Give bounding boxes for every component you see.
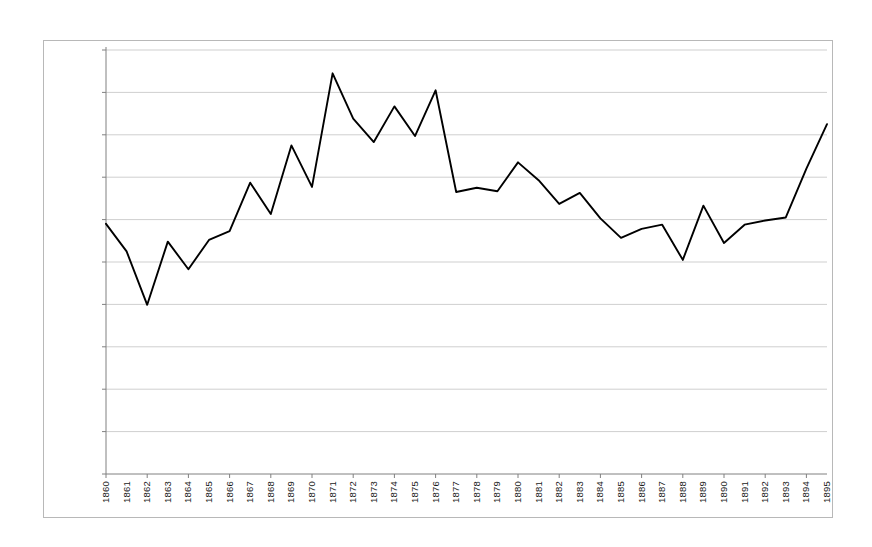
x-tick-label: 1867 — [245, 481, 255, 503]
x-tick-label: 1883 — [575, 481, 585, 503]
x-tick-label: 1863 — [163, 481, 173, 503]
x-tick-label: 1881 — [534, 481, 544, 503]
x-tick-label: 1872 — [348, 481, 358, 503]
x-tick-label: 1861 — [122, 481, 132, 503]
x-tick-label: 1870 — [307, 481, 317, 503]
x-tick-label: 1894 — [801, 481, 811, 503]
x-tick-label: 1885 — [616, 481, 626, 503]
chart-figure: 0.00000%0.10000%0.20000%0.30000%0.40000%… — [43, 40, 833, 518]
x-tick-label: 1887 — [657, 481, 667, 503]
x-tick-label: 1864 — [183, 481, 193, 503]
x-tick-label: 1886 — [637, 481, 647, 503]
x-tick-label: 1879 — [492, 481, 502, 503]
x-tick-label: 1888 — [678, 481, 688, 503]
x-tick-label: 1877 — [451, 481, 461, 503]
x-tick-label: 1862 — [142, 481, 152, 503]
x-tick-label: 1876 — [431, 481, 441, 503]
x-tick-label: 1890 — [719, 481, 729, 503]
x-tick-label: 1895 — [822, 481, 832, 503]
x-axis-tick-labels: 1860186118621863186418651866186718681869… — [44, 41, 834, 519]
x-tick-label: 1866 — [225, 481, 235, 503]
x-tick-label: 1893 — [781, 481, 791, 503]
x-tick-label: 1892 — [760, 481, 770, 503]
x-tick-label: 1868 — [266, 481, 276, 503]
x-tick-label: 1889 — [698, 481, 708, 503]
x-tick-label: 1869 — [286, 481, 296, 503]
x-tick-label: 1884 — [595, 481, 605, 503]
x-tick-label: 1865 — [204, 481, 214, 503]
x-tick-label: 1874 — [389, 481, 399, 503]
x-tick-label: 1873 — [369, 481, 379, 503]
x-tick-label: 1882 — [554, 481, 564, 503]
x-tick-label: 1875 — [410, 481, 420, 503]
x-tick-label: 1891 — [740, 481, 750, 503]
x-tick-label: 1871 — [328, 481, 338, 503]
x-tick-label: 1860 — [101, 481, 111, 503]
x-tick-label: 1878 — [472, 481, 482, 503]
x-tick-label: 1880 — [513, 481, 523, 503]
